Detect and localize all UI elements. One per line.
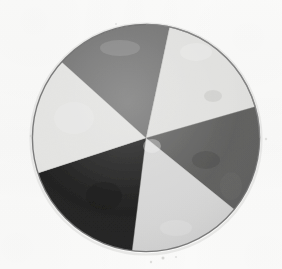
- disc-svg: [0, 0, 282, 269]
- sector-disc-figure: [0, 0, 282, 269]
- disc-grain-overlay: [0, 0, 282, 269]
- figure-canvas: [0, 0, 282, 269]
- disc-sectors-group: [0, 0, 282, 269]
